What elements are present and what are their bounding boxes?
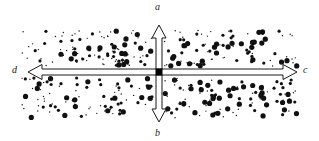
particle-dot-large (85, 79, 90, 84)
particle-dot-small (259, 93, 260, 94)
particle-dot-small (66, 50, 67, 51)
particle-dot-small (44, 98, 45, 99)
particle-dot-small (61, 35, 62, 36)
particle-dot-small (291, 58, 292, 59)
particle-dot-large (284, 58, 289, 63)
particle-dot-medium (143, 63, 146, 66)
particle-dot-medium (34, 49, 37, 52)
particle-dot-large (214, 50, 219, 55)
particle-dot-medium (117, 102, 120, 105)
particle-dot-large (199, 87, 204, 92)
particle-dot-small (77, 53, 78, 54)
particle-dot-medium (254, 91, 257, 94)
particle-dot-medium (281, 113, 284, 116)
particle-dot-large (148, 49, 153, 54)
particle-dot-medium (46, 80, 49, 83)
particle-dot-small (22, 104, 23, 105)
particle-dot-medium (32, 76, 35, 79)
particle-dot-medium (279, 93, 282, 96)
axis-label-c: c (303, 65, 307, 75)
particle-dot-medium (195, 32, 198, 35)
particle-dot-medium (38, 59, 41, 62)
particle-dot-small (183, 89, 184, 90)
particle-dot-small (179, 31, 180, 32)
particle-dot-small (189, 106, 190, 107)
particle-dot-large (168, 63, 173, 68)
particle-dot-small (176, 80, 177, 81)
particle-dot-small (74, 104, 75, 105)
axis-label-d: d (12, 65, 17, 75)
particle-dot-medium (189, 62, 192, 65)
particle-dot-medium (70, 39, 73, 42)
particle-dot-small (207, 35, 208, 36)
particle-dot-small (127, 54, 128, 55)
particle-dot-small (102, 58, 103, 59)
particle-dot-small (117, 48, 118, 49)
particle-dot-large (58, 52, 63, 57)
particle-dot-medium (50, 83, 53, 86)
particle-dot-small (186, 62, 187, 63)
particle-dot-medium (130, 84, 133, 87)
particle-dot-large (138, 46, 143, 51)
arrow-down (152, 72, 166, 122)
particle-dot-small (100, 105, 101, 106)
particle-dot-small (260, 98, 261, 99)
particle-dot-large (241, 84, 246, 89)
particle-dot-small (207, 90, 208, 91)
diagram-canvas (0, 0, 319, 141)
particle-dot-medium (118, 112, 121, 115)
particle-dot-large (260, 113, 265, 118)
particle-dot-large (72, 51, 77, 56)
particle-dot-small (224, 57, 225, 58)
particle-dot-small (125, 53, 126, 54)
particle-dot-medium (221, 34, 224, 37)
particle-dot-medium (288, 98, 291, 101)
particle-dot-small (107, 35, 108, 36)
particle-dot-small (55, 106, 56, 107)
particle-dot-small (103, 37, 104, 38)
particle-dot-medium (98, 55, 101, 58)
particle-dot-small (28, 46, 29, 47)
particle-dot-small (49, 93, 50, 94)
particle-dot-small (43, 96, 44, 97)
particle-dot-large (212, 45, 217, 50)
particle-dot-medium (249, 97, 252, 100)
particle-dot-large (48, 76, 53, 81)
particle-dot-large (198, 80, 203, 85)
particle-dot-medium (202, 63, 205, 66)
particle-dot-small (179, 101, 180, 102)
particle-dot-small (94, 54, 95, 55)
particle-dot-medium (189, 84, 192, 87)
particle-dot-large (250, 40, 255, 45)
particle-dot-small (103, 64, 104, 65)
particle-dot-large (145, 76, 150, 81)
particle-dot-small (232, 112, 233, 113)
particle-dot-small (233, 46, 234, 47)
particle-dot-small (197, 30, 198, 31)
particle-dot-small (112, 113, 113, 114)
particle-dot-small (284, 93, 285, 94)
particle-dot-small (21, 78, 22, 79)
particle-dot-medium (98, 49, 101, 52)
particle-dot-large (163, 91, 168, 96)
particle-dot-large (73, 104, 78, 109)
particle-dot-large (114, 29, 119, 34)
particle-dot-medium (150, 95, 153, 98)
particle-dot-small (112, 50, 113, 51)
particle-dot-small (87, 38, 88, 39)
particle-dot-small (295, 90, 296, 91)
particle-dot-small (120, 60, 121, 61)
particle-dot-small (282, 35, 283, 36)
particle-dot-medium (253, 109, 256, 112)
particle-dot-small (96, 113, 97, 114)
particle-dot-large (279, 59, 284, 64)
particle-dot-small (182, 37, 183, 38)
particle-dot-large (226, 88, 231, 93)
particle-dot-small (199, 115, 200, 116)
particle-dot-small (211, 59, 212, 60)
particle-dot-small (252, 102, 253, 103)
particle-dot-small (200, 87, 201, 88)
particle-dot-medium (59, 82, 62, 85)
particle-dot-medium (80, 115, 83, 118)
particle-dot-medium (290, 78, 293, 81)
